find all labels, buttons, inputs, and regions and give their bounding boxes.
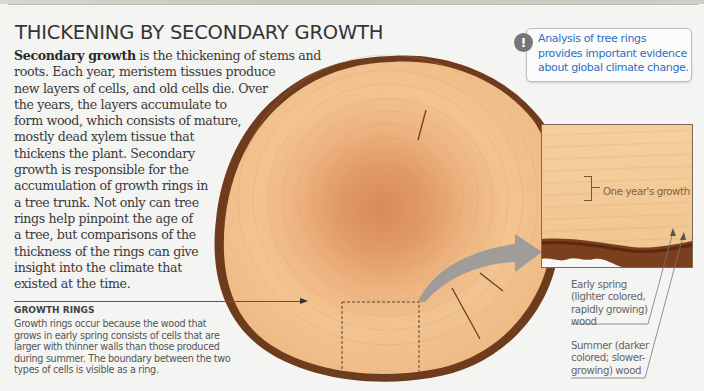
early-spring-label: Early spring (lighter colored, rapidly g… (571, 279, 648, 328)
summer-label: Summer (darker colored; slower- growing)… (571, 340, 649, 377)
annotation-leaders (0, 0, 704, 391)
